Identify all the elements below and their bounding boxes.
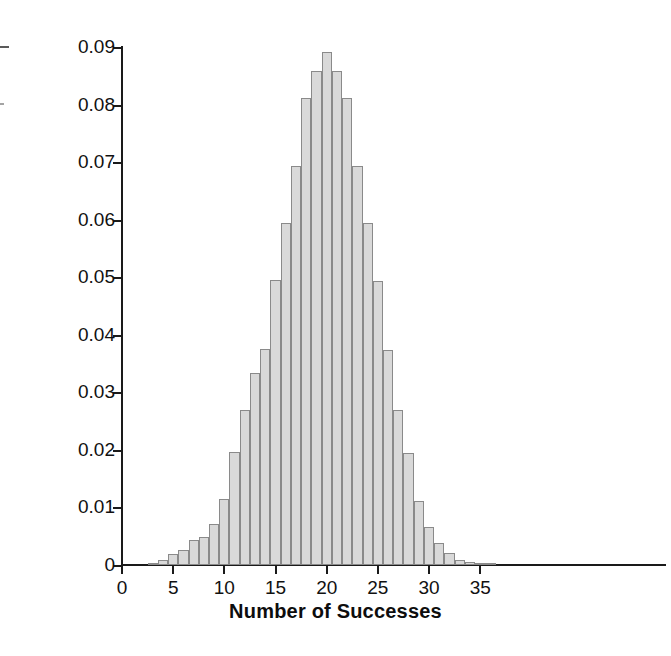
x-tick-label: 0: [117, 577, 128, 599]
x-axis-title: Number of Successes: [0, 600, 671, 623]
x-tick-mark: [223, 566, 225, 574]
x-tick-label: 30: [418, 577, 439, 599]
histogram-bar: [209, 524, 219, 565]
y-tick-label: 0.01: [78, 496, 115, 518]
histogram-bar: [342, 98, 352, 565]
histogram-bar: [311, 71, 321, 565]
histogram-bar: [475, 563, 485, 565]
histogram-bar: [281, 223, 291, 565]
y-tick-label: 0.03: [78, 381, 115, 403]
histogram-bar: [148, 563, 158, 565]
histogram-bar: [199, 537, 209, 565]
x-tick-mark: [377, 566, 379, 574]
x-tick-label: 5: [168, 577, 179, 599]
x-tick-mark: [172, 566, 174, 574]
x-tick-mark: [479, 566, 481, 574]
y-tick-label: 0.04: [78, 324, 115, 346]
histogram-bar: [373, 281, 383, 565]
scan-artifact-mark: [0, 46, 9, 48]
histogram-bar: [219, 499, 229, 565]
histogram-bar: [240, 410, 250, 565]
histogram-bar: [424, 527, 434, 565]
histogram-bar: [189, 540, 199, 565]
histogram-bar: [383, 350, 393, 565]
histogram-bar: [250, 373, 260, 565]
y-tick-label: 0: [104, 554, 115, 576]
histogram-bar: [414, 501, 424, 565]
x-tick-mark: [275, 566, 277, 574]
histogram-bar: [270, 280, 280, 565]
histogram-bar: [291, 166, 301, 565]
scan-artifact-mark: [0, 103, 4, 105]
histogram-bar: [332, 71, 342, 565]
histogram-bar: [322, 52, 332, 565]
x-tick-label: 10: [214, 577, 235, 599]
histogram-bar: [352, 166, 362, 565]
y-tick-label: 0.06: [78, 209, 115, 231]
x-tick-label: 20: [316, 577, 337, 599]
histogram-bar: [485, 563, 495, 565]
histogram-bar: [260, 349, 270, 565]
histogram-bar: [178, 550, 188, 565]
y-tick-label: 0.02: [78, 439, 115, 461]
histogram-bar: [455, 560, 465, 565]
histogram-bar: [403, 453, 413, 565]
histogram-bar: [393, 410, 403, 565]
y-tick-label: 0.08: [78, 94, 115, 116]
y-tick-label: 0.09: [78, 36, 115, 58]
histogram-bar: [301, 98, 311, 565]
histogram-bar: [168, 554, 178, 565]
x-tick-label: 25: [367, 577, 388, 599]
x-tick-mark: [428, 566, 430, 574]
histogram-bar: [229, 452, 239, 565]
y-tick-label: 0.05: [78, 266, 115, 288]
y-tick-label: 0.07: [78, 151, 115, 173]
x-tick-label: 35: [470, 577, 491, 599]
histogram-bar: [158, 560, 168, 565]
plot-area: 00.010.020.030.040.050.060.070.080.09: [122, 47, 557, 565]
histogram-bar: [363, 223, 373, 565]
binomial-histogram-figure: 00.010.020.030.040.050.060.070.080.09 05…: [0, 0, 671, 656]
x-tick-label: 15: [265, 577, 286, 599]
x-tick-mark: [326, 566, 328, 574]
histogram-bar: [434, 543, 444, 565]
x-tick-mark: [121, 566, 123, 574]
histogram-bar: [444, 553, 454, 565]
histogram-bar: [465, 562, 475, 565]
